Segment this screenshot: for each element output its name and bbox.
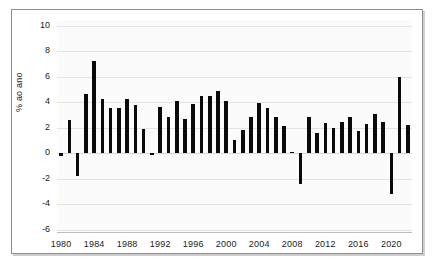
bar — [398, 77, 402, 154]
bar — [249, 117, 253, 153]
x-axis-tick-label: 2012 — [315, 239, 336, 249]
y-axis-tick-text: 10 — [0, 21, 50, 30]
y-axis-tick-label: 6 — [0, 72, 50, 82]
bar — [241, 130, 245, 153]
bar — [274, 117, 278, 153]
bar — [282, 126, 286, 153]
x-axis-tick-label: 1988 — [117, 239, 138, 249]
bar — [340, 122, 344, 153]
gridline — [57, 102, 412, 103]
bar — [381, 122, 385, 153]
bar — [183, 119, 187, 153]
y-axis-label: % ao ano — [14, 72, 24, 112]
x-axis-tick-label: 1984 — [84, 239, 105, 249]
bar — [59, 153, 63, 156]
bar — [200, 96, 204, 153]
bar — [307, 117, 311, 153]
bar — [290, 152, 294, 154]
y-axis-tick-label: -6 — [0, 225, 50, 235]
chart-figure: 1086420-2-4-6 % ao ano 19801984198819921… — [0, 0, 434, 267]
bar — [315, 133, 319, 153]
bar — [224, 101, 228, 153]
bar — [76, 153, 80, 176]
x-axis-tick-label: 1996 — [183, 239, 204, 249]
gridline — [57, 179, 412, 180]
bar — [175, 101, 179, 153]
bar — [348, 117, 352, 153]
y-axis-tick-text: 2 — [0, 123, 50, 132]
bar — [92, 61, 96, 153]
bar — [233, 140, 237, 153]
bar — [208, 96, 212, 153]
bar — [406, 125, 410, 153]
y-axis-tick-label: -4 — [0, 199, 50, 209]
bar — [266, 108, 270, 153]
y-axis-tick-text: -4 — [0, 199, 50, 208]
bar — [134, 105, 138, 153]
bar — [332, 128, 336, 153]
x-axis-tick-label: 2004 — [249, 239, 270, 249]
y-axis-tick-text: 4 — [0, 97, 50, 106]
y-axis-tick-label: 2 — [0, 123, 50, 133]
y-axis-tick-label: 8 — [0, 46, 50, 56]
bar — [158, 107, 162, 153]
bar — [167, 117, 171, 153]
y-axis-tick-text: -2 — [0, 174, 50, 183]
bar — [117, 108, 121, 153]
bar — [84, 94, 88, 153]
gridline — [57, 153, 412, 154]
x-axis-tick-label: 1992 — [150, 239, 171, 249]
x-axis-tick-label: 2008 — [282, 239, 303, 249]
gridline — [57, 26, 412, 27]
bar — [101, 99, 105, 153]
bar — [390, 153, 394, 194]
x-axis-line — [57, 232, 412, 233]
bar — [357, 131, 361, 153]
y-axis-tick-text: 6 — [0, 72, 50, 81]
x-axis-tick-label: 1980 — [51, 239, 72, 249]
y-axis-tick-label: -2 — [0, 174, 50, 184]
x-axis-tick-label: 2000 — [216, 239, 237, 249]
bar — [373, 114, 377, 153]
y-axis-tick-text: 8 — [0, 46, 50, 55]
y-axis-tick-text: -6 — [0, 225, 50, 234]
x-axis-tick-label: 2016 — [348, 239, 369, 249]
bar — [125, 99, 129, 153]
bar — [299, 153, 303, 184]
gridline — [57, 204, 412, 205]
bar — [365, 124, 369, 153]
gridline — [57, 51, 412, 52]
gridline — [57, 230, 412, 231]
bar — [142, 129, 146, 153]
bar — [109, 108, 113, 153]
y-axis-tick-label: 4 — [0, 97, 50, 107]
bar — [257, 103, 261, 153]
bar — [216, 91, 220, 153]
y-axis-tick-label: 0 — [0, 148, 50, 158]
bar — [150, 153, 154, 155]
y-axis-tick-label: 10 — [0, 21, 50, 31]
y-axis-tick-text: 0 — [0, 148, 50, 157]
x-axis-tick-label: 2020 — [381, 239, 402, 249]
bar — [68, 120, 72, 153]
bar — [324, 123, 328, 153]
bar — [191, 104, 195, 153]
gridline — [57, 77, 412, 78]
